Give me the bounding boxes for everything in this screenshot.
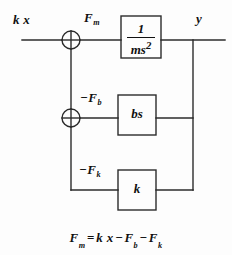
equation-term2-subscript: b <box>134 241 139 250</box>
sum-output-signal-label: Fm <box>84 11 100 24</box>
output-signal-label: y <box>196 12 202 25</box>
equation-lhs-base: F <box>70 230 79 245</box>
sum-output-subscript: m <box>93 18 100 27</box>
equation-equals: = <box>85 230 96 245</box>
plant-block-fraction-bar <box>127 37 155 38</box>
spring-feedback-base: −F <box>79 162 96 177</box>
equation-term3-base: F <box>149 230 158 245</box>
equation-term2-base: F <box>124 230 133 245</box>
plant-block-denominator: ms2 <box>121 40 161 56</box>
equation-lhs-subscript: m <box>79 241 86 250</box>
force-balance-equation: Fm=k x−Fb−Fk <box>0 230 232 248</box>
damper-feedback-label: −Fb <box>80 91 102 104</box>
damper-feedback-subscript: b <box>97 98 101 107</box>
input-signal-label: k x <box>13 13 30 26</box>
plant-denominator-base: ms <box>131 42 146 57</box>
plant-denominator-exponent: 2 <box>146 39 151 51</box>
spring-feedback-subscript: k <box>96 170 100 179</box>
block-diagram-figure: k x Fm y −Fb −Fk 1 ms2 bs k Fm=k x−Fb−Fk <box>0 0 232 255</box>
diagram-lines-svg <box>0 0 232 255</box>
equation-minus2: − <box>138 230 149 245</box>
damper-block-label: bs <box>118 107 156 120</box>
equation-term1: k x <box>96 230 113 245</box>
plant-block-numerator: 1 <box>121 22 161 35</box>
spring-feedback-label: −Fk <box>79 163 101 176</box>
spring-block-label: k <box>118 182 156 195</box>
sum-output-base: F <box>84 10 93 25</box>
damper-feedback-base: −F <box>80 90 97 105</box>
equation-minus1: − <box>114 230 125 245</box>
equation-term3-subscript: k <box>158 241 163 250</box>
